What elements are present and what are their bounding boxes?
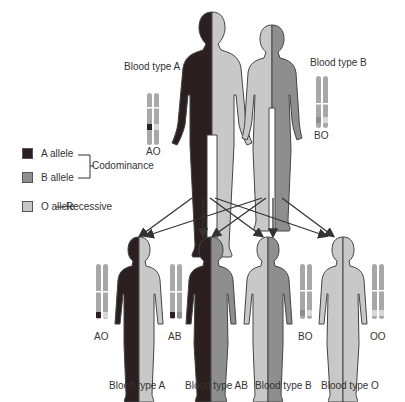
child-figure-ab xyxy=(186,237,236,402)
legend-label-b: B allele xyxy=(41,172,74,183)
child-figure-a xyxy=(115,237,163,402)
child-o-chromosomes xyxy=(372,264,384,319)
child-ab-genotype: AB xyxy=(168,331,181,342)
legend-swatch-b xyxy=(22,172,33,183)
recessive-label: Recessive xyxy=(66,201,112,212)
father-genotype: AO xyxy=(146,146,160,157)
child-b-blood-type-label: Blood type B xyxy=(255,380,312,391)
child-ab-blood-type-label: Blood type AB xyxy=(185,380,248,391)
child-b-genotype: BO xyxy=(298,331,312,342)
mother-figure xyxy=(242,25,302,231)
father-chromosomes xyxy=(147,93,159,145)
father-blood-type-label: Blood type A xyxy=(124,61,180,72)
child-o-genotype: OO xyxy=(370,331,386,342)
child-b-chromosomes xyxy=(300,264,312,319)
mother-blood-type-label: Blood type B xyxy=(310,57,367,68)
child-figure-b xyxy=(244,237,292,402)
child-a-chromosomes xyxy=(96,264,108,319)
mother-chromosomes xyxy=(316,76,328,128)
child-a-genotype: AO xyxy=(94,331,108,342)
child-o-blood-type-label: Blood type O xyxy=(321,380,379,391)
mother-genotype: BO xyxy=(314,130,328,141)
child-figure-o xyxy=(319,237,367,402)
child-ab-chromosomes xyxy=(170,264,182,319)
legend-swatch-a xyxy=(22,148,33,159)
inheritance-arrows xyxy=(140,198,333,236)
child-a-blood-type-label: Blood type A xyxy=(109,380,165,391)
legend-swatch-o xyxy=(22,201,33,212)
codominance-label: Codominance xyxy=(92,160,154,171)
legend-label-a: A allele xyxy=(41,148,73,159)
